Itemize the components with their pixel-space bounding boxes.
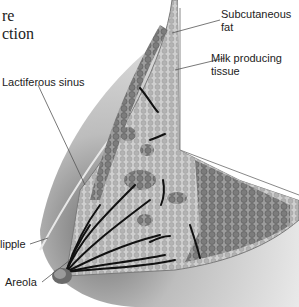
- label-areola: Areola: [5, 276, 37, 288]
- breast-anatomy-diagram: re ction Subcutaneous fat Milk producing…: [0, 0, 299, 307]
- label-nipple: lipple: [0, 238, 26, 250]
- title-line-2: ction: [2, 24, 34, 43]
- title-line-1: re: [2, 6, 14, 25]
- label-milk-producing-tissue-line1: Milk producing: [211, 52, 282, 64]
- breast-cross-section-illustration: [0, 0, 299, 307]
- label-milk-producing-tissue-line2: tissue: [211, 65, 240, 77]
- label-subcutaneous-fat-line2: fat: [221, 21, 233, 33]
- label-subcutaneous-fat-line1: Subcutaneous: [221, 8, 291, 20]
- label-lactiferous-sinus: Lactiferous sinus: [2, 76, 85, 88]
